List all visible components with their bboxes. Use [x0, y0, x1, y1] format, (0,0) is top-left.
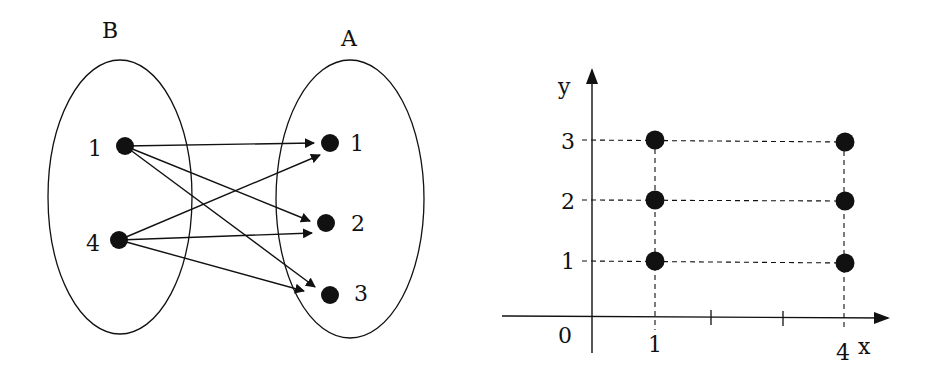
- arrow-b1-a2: [125, 146, 310, 221]
- set-a-ellipse: [276, 60, 424, 338]
- set-a-element-3-label: 3: [354, 281, 368, 306]
- x-axis-label: x: [858, 334, 871, 359]
- y-tick-label-3: 3: [561, 129, 575, 154]
- point-1-3: [646, 131, 665, 150]
- guide-y3: [582, 140, 845, 142]
- set-b-element-4-dot: [110, 231, 128, 249]
- arrow-b4-a1: [119, 155, 320, 240]
- arrow-b4-a2: [119, 233, 312, 240]
- x-tick-label-1: 1: [648, 332, 662, 357]
- y-tick-label-1: 1: [561, 249, 575, 274]
- arrow-b1-a3: [125, 146, 315, 287]
- plot-points: [646, 131, 855, 273]
- origin-label: 0: [558, 323, 572, 348]
- set-b-label: B: [102, 18, 118, 43]
- set-a-element-1-dot: [321, 134, 339, 152]
- coordinate-plot: y x 0 3 2 1 1 4: [502, 70, 888, 365]
- set-a-element-3-dot: [321, 286, 339, 304]
- point-4-1: [836, 254, 855, 273]
- figure-canvas: B A 1 4 1 2 3: [0, 0, 936, 381]
- arrow-b4-a3: [119, 240, 304, 291]
- set-b-element-4-label: 4: [86, 231, 100, 256]
- mapping-arrows: [119, 143, 320, 291]
- guide-y2: [582, 200, 845, 201]
- y-axis-label: y: [557, 74, 571, 99]
- arrow-b1-a1: [125, 143, 314, 146]
- guide-y1: [582, 261, 845, 263]
- x-axis: [502, 316, 888, 318]
- set-a-element-2-label: 2: [351, 211, 365, 236]
- set-a-element-1-label: 1: [350, 131, 364, 156]
- set-a-label: A: [340, 26, 358, 51]
- set-b-element-1-label: 1: [88, 136, 102, 161]
- mapping-diagram: B A 1 4 1 2 3: [48, 18, 424, 338]
- point-4-2: [836, 192, 855, 211]
- point-1-1: [646, 252, 665, 271]
- set-b-ellipse: [48, 60, 192, 334]
- point-4-3: [836, 133, 855, 152]
- guide-lines: [582, 140, 845, 330]
- y-tick-label-2: 2: [561, 189, 575, 214]
- set-b-element-1-dot: [116, 137, 134, 155]
- x-tick-label-4: 4: [836, 340, 850, 365]
- set-a-element-2-dot: [317, 214, 335, 232]
- point-1-2: [646, 191, 665, 210]
